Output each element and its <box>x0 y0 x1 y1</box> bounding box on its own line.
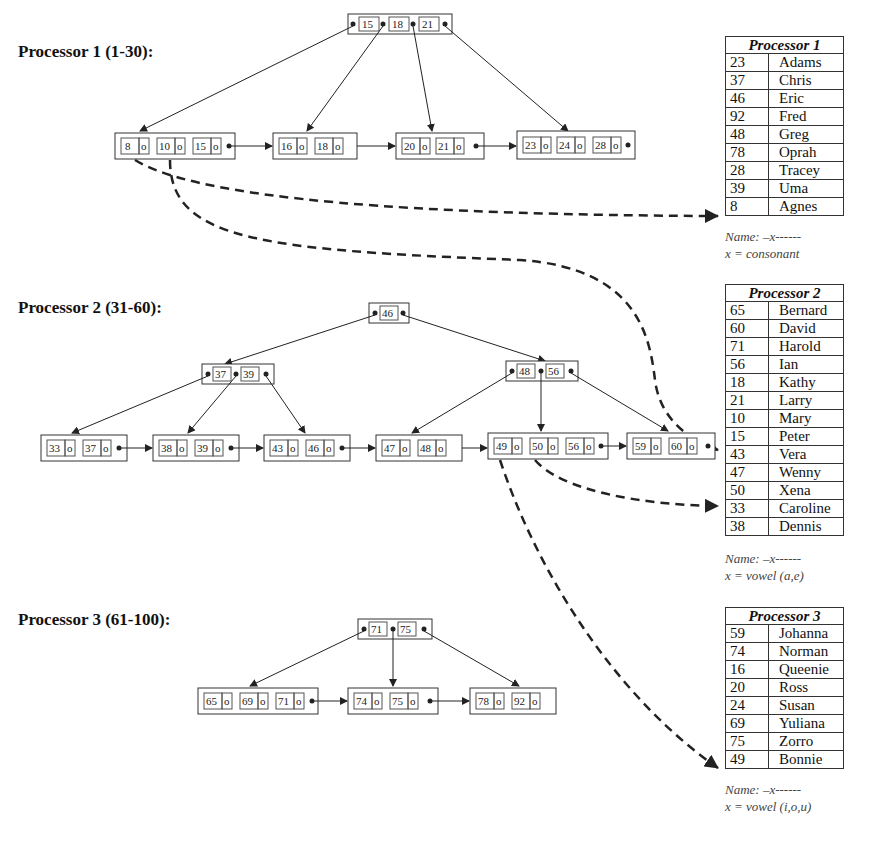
table-row: 46Eric <box>726 90 844 108</box>
row-id: 60 <box>726 320 769 338</box>
svg-text:o: o <box>496 695 502 707</box>
row-id: 10 <box>726 410 769 428</box>
svg-text:71: 71 <box>371 623 382 635</box>
row-id: 37 <box>726 72 769 90</box>
svg-text:o: o <box>224 695 230 707</box>
svg-text:o: o <box>422 140 428 152</box>
svg-text:38: 38 <box>161 442 173 454</box>
svg-text:o: o <box>689 440 695 452</box>
p3-leaf-2: 74 o 75 o <box>348 688 438 714</box>
row-id: 59 <box>726 625 769 643</box>
svg-text:21: 21 <box>438 140 449 152</box>
table-row: 47Wenny <box>726 464 844 482</box>
svg-text:o: o <box>613 139 619 151</box>
table-row: 8Agnes <box>726 198 844 216</box>
row-id: 18 <box>726 374 769 392</box>
svg-text:37: 37 <box>215 368 227 380</box>
row-id: 16 <box>726 661 769 679</box>
row-id: 43 <box>726 446 769 464</box>
processor-2-table-header: Processor 2 <box>726 285 844 302</box>
processor-1-table: Processor 1 23Adams 37Chris 46Eric 92Fre… <box>725 36 844 216</box>
row-name: Bonnie <box>769 751 844 769</box>
svg-text:o: o <box>299 140 305 152</box>
svg-text:39: 39 <box>243 368 255 380</box>
svg-text:o: o <box>577 139 583 151</box>
table-row: 56Ian <box>726 356 844 374</box>
table-row: 37Chris <box>726 72 844 90</box>
row-name: Kathy <box>769 374 844 392</box>
svg-text:o: o <box>543 139 549 151</box>
row-name: Peter <box>769 428 844 446</box>
p2-leaf-2: 38 o 39 o <box>153 435 239 461</box>
svg-text:o: o <box>141 140 147 152</box>
table-row: 21Larry <box>726 392 844 410</box>
svg-text:o: o <box>410 695 416 707</box>
svg-text:o: o <box>456 140 462 152</box>
row-name: Bernard <box>769 302 844 320</box>
svg-text:78: 78 <box>478 695 490 707</box>
svg-text:43: 43 <box>272 442 284 454</box>
row-id: 74 <box>726 643 769 661</box>
table-row: 10Mary <box>726 410 844 428</box>
svg-text:o: o <box>296 695 302 707</box>
svg-text:59: 59 <box>635 440 647 452</box>
svg-text:o: o <box>438 442 444 454</box>
svg-text:21: 21 <box>422 18 433 30</box>
table-row: 23Adams <box>726 54 844 72</box>
svg-text:24: 24 <box>559 139 571 151</box>
svg-text:33: 33 <box>49 442 61 454</box>
p1-leaf-3: 20 o 21 o <box>396 133 484 159</box>
table-row: 69Yuliana <box>726 715 844 733</box>
row-name: Oprah <box>769 144 844 162</box>
svg-text:69: 69 <box>242 695 254 707</box>
table-row: 43Vera <box>726 446 844 464</box>
table-row: 28Tracey <box>726 162 844 180</box>
row-name: Norman <box>769 643 844 661</box>
p2-internal-left: 37 39 <box>202 364 274 384</box>
processor-1-table-header: Processor 1 <box>726 37 844 54</box>
row-id: 46 <box>726 90 769 108</box>
row-name: Adams <box>769 54 844 72</box>
row-id: 15 <box>726 428 769 446</box>
table-row: 65Bernard <box>726 302 844 320</box>
table-row: 92Fred <box>726 108 844 126</box>
row-name: Fred <box>769 108 844 126</box>
svg-text:23: 23 <box>525 139 537 151</box>
row-id: 20 <box>726 679 769 697</box>
row-name: Wenny <box>769 464 844 482</box>
row-name: Ross <box>769 679 844 697</box>
row-id: 28 <box>726 162 769 180</box>
svg-text:o: o <box>213 140 219 152</box>
row-name: Eric <box>769 90 844 108</box>
table-row: 59Johanna <box>726 625 844 643</box>
note-line-1: Name: –x------ <box>725 228 801 245</box>
svg-text:o: o <box>335 140 341 152</box>
row-name: Zorro <box>769 733 844 751</box>
svg-text:o: o <box>260 695 266 707</box>
processor-3-table: Processor 3 59Johanna 74Norman 16Queenie… <box>725 607 844 769</box>
row-name: Yuliana <box>769 715 844 733</box>
row-id: 92 <box>726 108 769 126</box>
row-name: Queenie <box>769 661 844 679</box>
svg-text:60: 60 <box>671 440 683 452</box>
p1-leaf-1: 8 o 10 o 15 o <box>115 133 235 159</box>
svg-text:28: 28 <box>595 139 607 151</box>
row-id: 8 <box>726 198 769 216</box>
row-id: 33 <box>726 500 769 518</box>
svg-text:o: o <box>67 442 73 454</box>
svg-text:15: 15 <box>195 140 207 152</box>
processor-3-note: Name: –x------ x = vowel (i,o,u) <box>725 781 811 815</box>
row-id: 48 <box>726 126 769 144</box>
p2-root-node: 46 <box>369 303 409 323</box>
p1-root-node: 15 18 21 <box>348 14 452 34</box>
table-row: 75Zorro <box>726 733 844 751</box>
svg-text:o: o <box>326 442 332 454</box>
p2-leaf-4: 47 o 48 o <box>376 435 462 461</box>
row-id: 69 <box>726 715 769 733</box>
row-id: 75 <box>726 733 769 751</box>
row-name: Vera <box>769 446 844 464</box>
row-id: 78 <box>726 144 769 162</box>
svg-text:92: 92 <box>514 695 525 707</box>
row-id: 23 <box>726 54 769 72</box>
svg-text:46: 46 <box>382 307 394 319</box>
